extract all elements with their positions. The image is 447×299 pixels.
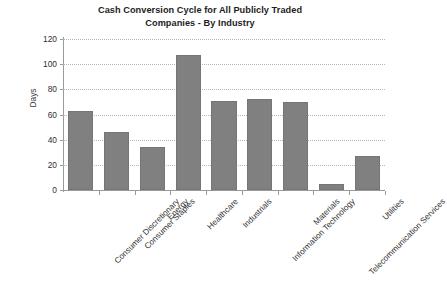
bar xyxy=(283,102,308,190)
x-tick-mark xyxy=(206,191,207,195)
bar xyxy=(247,99,272,190)
x-tick-mark xyxy=(242,191,243,195)
y-tick-label: 60 xyxy=(31,111,57,119)
y-tick-label: 80 xyxy=(31,85,57,93)
y-tick-label: 20 xyxy=(31,161,57,169)
plot-area xyxy=(63,39,385,190)
bar xyxy=(319,184,344,190)
chart-title-line-2: Companies - By Industry xyxy=(40,17,360,30)
y-tick-label: 40 xyxy=(31,136,57,144)
x-tick-mark xyxy=(385,191,386,195)
bar xyxy=(68,111,93,190)
x-tick-mark xyxy=(278,191,279,195)
x-tick-label: Telecommunication Services xyxy=(368,197,447,277)
bar xyxy=(104,132,129,190)
bar xyxy=(211,101,236,190)
x-tick-label: Utilities xyxy=(381,197,406,222)
bar xyxy=(140,147,165,190)
chart-title-line-1: Cash Conversion Cycle for All Publicly T… xyxy=(40,4,360,17)
x-tick-mark xyxy=(170,191,171,195)
y-tick-mark xyxy=(60,190,63,191)
x-tick-mark xyxy=(313,191,314,195)
x-tick-label: Industrials xyxy=(241,197,274,230)
x-tick-mark xyxy=(135,191,136,195)
x-tick-label: Healthcare xyxy=(206,197,240,231)
y-tick-label: 120 xyxy=(31,35,57,43)
chart-title: Cash Conversion Cycle for All Publicly T… xyxy=(40,4,360,29)
y-tick-label: 100 xyxy=(31,60,57,68)
bar xyxy=(176,55,201,190)
x-tick-mark xyxy=(99,191,100,195)
gridline xyxy=(63,190,385,191)
x-tick-label: Consumer Discretionary xyxy=(113,197,181,265)
y-tick-label: 0 xyxy=(31,186,57,194)
bar xyxy=(355,156,380,190)
bar-series xyxy=(63,39,385,190)
x-tick-mark xyxy=(349,191,350,195)
